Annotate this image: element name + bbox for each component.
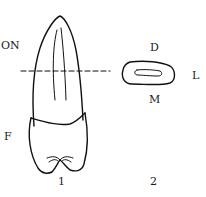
- label-distal: D: [150, 42, 159, 53]
- label-occlusal-notch: ON: [1, 40, 20, 51]
- label-facial: F: [4, 131, 12, 142]
- panel-number-1: 1: [58, 176, 65, 187]
- panel-number-2: 2: [150, 176, 157, 187]
- label-mesial: M: [149, 94, 160, 105]
- cross-section: [122, 61, 174, 84]
- tooth-diagram-svg: [0, 0, 206, 197]
- diagram-canvas: ON F D L M 1 2: [0, 0, 206, 197]
- label-lingual: L: [192, 70, 199, 81]
- tooth-outline: [29, 16, 87, 173]
